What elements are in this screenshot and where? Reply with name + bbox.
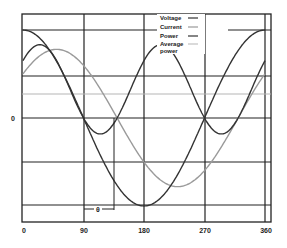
svg-text:Power: Power <box>160 33 179 39</box>
y-axis-zero-label: 0 <box>11 115 15 122</box>
x-axis-labels: 0 90 180 270 360 <box>22 227 272 234</box>
svg-text:Current: Current <box>160 24 182 30</box>
svg-text:Average: Average <box>160 41 184 47</box>
x-tick-0: 0 <box>22 227 26 234</box>
x-tick-180: 180 <box>138 227 150 234</box>
x-tick-90: 90 <box>80 227 88 234</box>
legend: Voltage Current Power Average power <box>157 14 205 54</box>
power-waveform-chart: θ Voltage Current Power Average power 0 … <box>0 0 287 248</box>
x-tick-270: 270 <box>199 227 211 234</box>
phase-angle-label: θ <box>96 206 100 213</box>
phase-angle-marker: θ <box>84 118 114 213</box>
svg-text:power: power <box>160 48 178 54</box>
svg-text:Voltage: Voltage <box>160 15 182 21</box>
x-tick-360: 360 <box>260 227 272 234</box>
